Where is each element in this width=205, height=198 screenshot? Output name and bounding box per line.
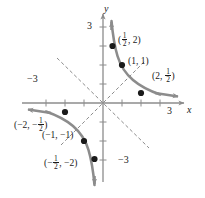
- point-1-1: [119, 62, 125, 68]
- fraction-one-half: 12: [53, 155, 59, 172]
- fraction-one-half: 12: [122, 32, 128, 49]
- fraction-one-half: 12: [165, 68, 171, 85]
- fraction-denominator: 2: [122, 40, 128, 48]
- point-neg1-neg1: [81, 138, 87, 144]
- x-axis-label: x: [187, 105, 191, 115]
- point-label-neg1-neg1: (−1, −1): [42, 131, 73, 141]
- point-label-1-1: (1, 1): [128, 57, 149, 67]
- point-label-neghalf-neg2-open: (−: [44, 158, 53, 168]
- reciprocal-function-figure: x y −3 3 3 −3 (12, 2) (1, 1) (2, 12) (−2…: [0, 0, 205, 198]
- y-tick-label-negative-3: −3: [118, 155, 129, 165]
- graph-canvas: [0, 0, 205, 198]
- point-label-neg2-neghalf-close: ): [44, 120, 47, 130]
- point-neghalf-neg2: [91, 156, 97, 162]
- point-label-neghalf-neg2-rest: , −2): [59, 158, 77, 168]
- point-neg2-neghalf: [62, 109, 68, 115]
- point-2-half: [138, 90, 144, 96]
- y-axis-label: y: [104, 4, 108, 14]
- point-label-neg2-neghalf-open: (−2, −: [14, 120, 37, 130]
- point-label-half-2-rest: , 2): [128, 35, 141, 45]
- point-label-2-half-close: ): [171, 71, 174, 81]
- fraction-denominator: 2: [53, 163, 59, 171]
- x-tick-label-negative-3: −3: [27, 74, 38, 84]
- y-axis: [100, 14, 107, 182]
- point-label-2-half: (2, 12): [152, 68, 175, 85]
- point-label-neghalf-neg2: (−12, −2): [44, 155, 77, 172]
- point-label-half-2: (12, 2): [118, 32, 141, 49]
- y-tick-label-3: 3: [87, 21, 92, 31]
- fraction-denominator: 2: [165, 76, 171, 84]
- point-label-2-half-open: (2,: [152, 71, 165, 81]
- x-tick-label-3: 3: [167, 106, 172, 116]
- point-half-2: [109, 43, 115, 49]
